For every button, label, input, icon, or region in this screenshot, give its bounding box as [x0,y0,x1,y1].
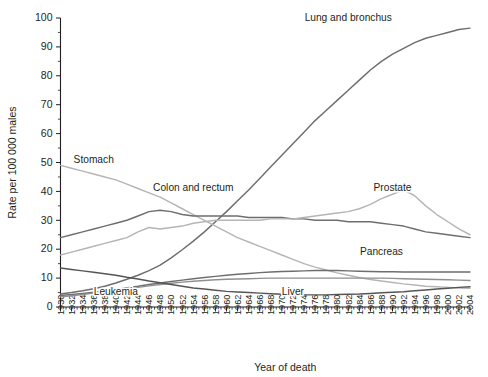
x-tick-label: 1972 [288,295,298,315]
x-tick-label: 1932 [67,295,77,315]
x-tick-label: 1988 [377,295,387,315]
series-label-leukemia: Leukemia [94,286,139,297]
x-tick-label: 1986 [366,295,376,315]
x-axis-title: Year of death [254,361,316,373]
y-tick-label: 50 [41,156,53,168]
x-tick-label: 2004 [465,295,475,315]
x-tick-label: 1996 [421,295,431,315]
x-tick-label: 1948 [155,295,165,315]
y-tick-label: 0 [47,300,53,312]
x-tick-label: 2000 [443,295,453,315]
x-tick-label: 1964 [244,295,254,315]
x-tick-label: 1930 [56,295,66,315]
x-tick-label: 1960 [222,295,232,315]
x-tick-label: 1946 [144,295,154,315]
y-tick-label: 20 [41,242,53,254]
series-line-prostate [61,190,471,255]
y-tick-label: 40 [41,185,53,197]
x-tick-label: 1954 [189,295,199,315]
y-tick-label: 100 [35,11,53,23]
y-tick-label: 60 [41,127,53,139]
x-tick-label: 1976 [310,295,320,315]
x-tick-label: 1950 [166,295,176,315]
y-tick-label: 30 [41,214,53,226]
series-label-prostate: Prostate [374,182,412,193]
x-tick-label: 1940 [111,295,121,315]
x-tick-label: 1990 [388,295,398,315]
x-tick-label: 1966 [255,295,265,315]
x-tick-label: 1970 [277,295,287,315]
line-chart: 0102030405060708090100193019321934193619… [0,0,488,377]
y-tick-label: 70 [41,98,53,110]
y-tick-label: 80 [41,69,53,81]
y-tick-label: 90 [41,40,53,52]
x-tick-label: 1936 [89,295,99,315]
x-tick-label: 1958 [211,295,221,315]
series-label-stomach: Stomach [74,154,114,165]
x-tick-label: 1956 [200,295,210,315]
x-tick-label: 1992 [399,295,409,315]
x-tick-label: 1978 [321,295,331,315]
series-line-colon-and-rectum [61,210,471,237]
x-tick-label: 1984 [355,295,365,315]
figure-container: 0102030405060708090100193019321934193619… [0,0,488,377]
series-line-lung-and-bronchus [61,28,471,294]
x-tick-label: 1980 [332,295,342,315]
x-tick-label: 1994 [410,295,420,315]
series-label-lung-and-bronchus: Lung and bronchus [305,12,392,23]
x-tick-label: 1942 [122,295,132,315]
y-axis-title: Rate per 100 000 males [6,106,18,218]
x-tick-label: 2002 [454,295,464,315]
x-tick-label: 1982 [344,295,354,315]
y-tick-label: 10 [41,271,53,283]
series-label-colon-and-rectum: Colon and rectum [153,182,233,193]
x-tick-label: 1938 [100,295,110,315]
x-tick-label: 1944 [133,295,143,315]
x-tick-label: 1934 [78,295,88,315]
x-tick-label: 1968 [266,295,276,315]
x-tick-label: 1974 [299,295,309,315]
series-label-liver: Liver [282,286,305,297]
x-tick-label: 1962 [233,295,243,315]
series-label-pancreas: Pancreas [360,246,403,257]
x-tick-label: 1998 [432,295,442,315]
x-tick-label: 1952 [178,295,188,315]
